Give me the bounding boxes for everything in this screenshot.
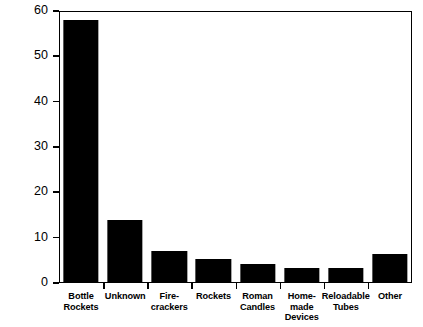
bar[interactable] [152, 251, 187, 283]
bar-slot [147, 11, 191, 283]
bar[interactable] [372, 254, 407, 283]
bar[interactable] [196, 259, 231, 283]
x-axis-label: Other [362, 291, 418, 302]
x-axis-label-line: crackers [141, 302, 197, 313]
x-axis-label-line: Tubes [318, 302, 374, 313]
bar[interactable] [328, 268, 363, 283]
bar-slot [324, 11, 368, 283]
x-tick-mark [368, 283, 370, 289]
bar-slot [103, 11, 147, 283]
x-tick-mark [191, 283, 193, 289]
x-tick-mark [280, 283, 282, 289]
bar-slot [236, 11, 280, 283]
bar-slot [191, 11, 235, 283]
x-tick-mark [103, 283, 105, 289]
x-tick-mark [147, 283, 149, 289]
y-tick-label: 50 [0, 48, 48, 63]
x-axis-label-line: Devices [274, 312, 330, 323]
y-tick-label: 30 [0, 139, 48, 154]
y-tick-label: 0 [0, 275, 48, 290]
y-tick-label: 10 [0, 230, 48, 245]
bar-chart: Percent 0102030405060 BottleRocketsUnkno… [0, 0, 423, 327]
x-tick-mark [324, 283, 326, 289]
bar-slot [280, 11, 324, 283]
y-tick-label: 40 [0, 94, 48, 109]
bars-area [59, 11, 412, 283]
x-tick-mark [236, 283, 238, 289]
y-tick-label: 20 [0, 184, 48, 199]
bar[interactable] [108, 220, 143, 283]
y-tick-label: 60 [0, 3, 48, 18]
bar-slot [59, 11, 103, 283]
bar[interactable] [284, 268, 319, 283]
x-axis-label-line: Rockets [53, 302, 109, 313]
bar[interactable] [63, 20, 98, 283]
bar-slot [368, 11, 412, 283]
x-axis-label-line: Other [362, 291, 418, 302]
bar[interactable] [240, 264, 275, 283]
